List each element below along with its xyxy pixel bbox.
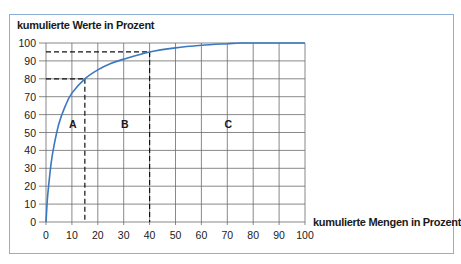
y-tick-label: 80 — [24, 73, 36, 85]
x-tick-label: 100 — [296, 229, 314, 241]
y-tick-label: 0 — [30, 216, 36, 228]
axis-ticks: 0102030405060708090100010203040506070809… — [18, 37, 313, 241]
x-tick-label: 0 — [43, 229, 49, 241]
x-tick-label: 70 — [221, 229, 233, 241]
y-tick-label: 50 — [24, 127, 36, 139]
x-tick-label: 80 — [247, 229, 259, 241]
y-tick-label: 20 — [24, 180, 36, 192]
chart-grid — [39, 43, 305, 225]
x-tick-label: 30 — [118, 229, 130, 241]
y-axis-title: kumulierte Werte in Prozent — [17, 19, 155, 31]
zone-label-c: C — [225, 118, 233, 130]
zone-label-a: A — [69, 118, 77, 130]
x-tick-label: 10 — [66, 229, 78, 241]
y-tick-label: 100 — [18, 37, 36, 49]
x-axis-title: kumulierte Mengen in Prozent — [313, 216, 461, 228]
y-tick-label: 10 — [24, 198, 36, 210]
x-tick-label: 50 — [170, 229, 182, 241]
y-tick-label: 90 — [24, 55, 36, 67]
x-tick-label: 20 — [92, 229, 104, 241]
x-tick-label: 60 — [196, 229, 208, 241]
y-tick-label: 40 — [24, 144, 36, 156]
x-tick-label: 90 — [273, 229, 285, 241]
y-tick-label: 60 — [24, 109, 36, 121]
zone-label-b: B — [121, 118, 129, 130]
abc-analysis-chart: 0102030405060708090100010203040506070809… — [0, 0, 461, 264]
x-tick-label: 40 — [144, 229, 156, 241]
y-tick-label: 70 — [24, 91, 36, 103]
y-tick-label: 30 — [24, 162, 36, 174]
